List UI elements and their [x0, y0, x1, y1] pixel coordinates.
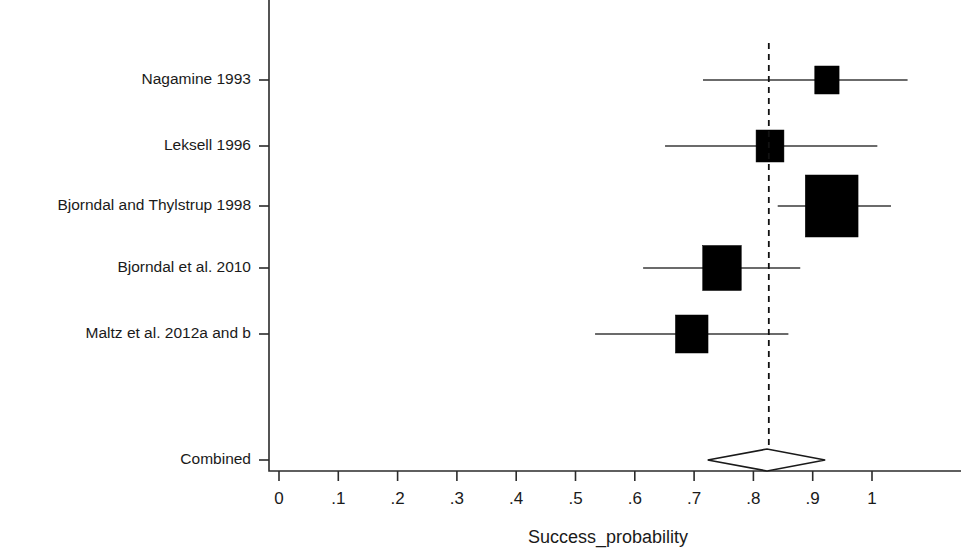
combined-label: Combined	[180, 450, 251, 467]
x-tick-label: .4	[509, 489, 523, 508]
forest-plot: Nagamine 1993Leksell 1996Bjorndal and Th…	[0, 0, 961, 557]
effect-estimate-box	[815, 66, 839, 94]
study-row	[665, 130, 877, 162]
combined-effect-diamond	[708, 449, 825, 471]
axes-group	[259, 0, 961, 481]
x-tick-label: .8	[746, 489, 760, 508]
study-row	[595, 315, 788, 353]
effect-estimate-box	[675, 315, 708, 353]
study-row	[643, 246, 800, 291]
study-labels-group: Nagamine 1993Leksell 1996Bjorndal and Th…	[57, 70, 251, 467]
study-label: Leksell 1996	[164, 136, 251, 153]
x-tick-label: .5	[568, 489, 582, 508]
forest-plot-canvas: Nagamine 1993Leksell 1996Bjorndal and Th…	[0, 0, 961, 557]
study-label: Bjorndal and Thylstrup 1998	[57, 196, 251, 213]
study-rows-group	[595, 66, 908, 353]
x-tick-labels-group: 0.1.2.3.4.5.6.7.8.91	[274, 489, 876, 508]
study-label: Bjorndal et al. 2010	[117, 258, 251, 275]
x-tick-label: 0	[274, 489, 283, 508]
x-tick-label: .3	[450, 489, 464, 508]
study-label: Maltz et al. 2012a and b	[86, 324, 251, 341]
study-row	[778, 175, 891, 237]
x-tick-label: 1	[867, 489, 876, 508]
x-tick-label: .2	[391, 489, 405, 508]
study-row	[703, 66, 908, 94]
effect-estimate-box	[805, 175, 858, 237]
x-axis-tick-marks	[279, 471, 872, 481]
effect-estimate-box	[756, 130, 784, 162]
x-tick-label: .1	[331, 489, 345, 508]
x-tick-label: .9	[806, 489, 820, 508]
effect-estimate-box	[703, 246, 742, 291]
y-axis-tick-marks	[259, 80, 269, 460]
combined-row-group	[708, 449, 825, 471]
study-label: Nagamine 1993	[142, 70, 251, 87]
x-tick-label: .6	[628, 489, 642, 508]
x-axis-title: Success_probability	[528, 527, 688, 548]
x-tick-label: .7	[687, 489, 701, 508]
